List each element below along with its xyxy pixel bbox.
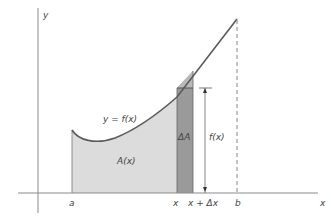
y-axis-label: y [42, 10, 49, 20]
area-region [72, 97, 177, 193]
area-label: A(x) [116, 156, 136, 166]
area-function-diagram: y x y = f(x) A(x) ΔA f(x) a x x + Δx b [0, 0, 331, 219]
x-axis-label: x [319, 198, 326, 208]
height-label: f(x) [209, 132, 225, 142]
fx-arrow-down-icon [203, 187, 207, 192]
curve-label: y = f(x) [102, 114, 137, 124]
strip-label: ΔA [177, 132, 190, 142]
tick-x: x [172, 198, 179, 208]
tick-a: a [69, 198, 75, 208]
fx-arrow-up-icon [203, 88, 207, 93]
tick-x-plus-dx: x + Δx [187, 198, 219, 208]
tick-b: b [235, 198, 241, 208]
